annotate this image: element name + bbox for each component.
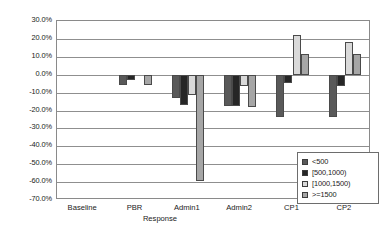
plot-area: <500[500,1000)[1000,1500)>=1500 bbox=[56, 20, 370, 199]
x-axis: BaselinePBRAdmin1Admin2CP1CP2 bbox=[56, 203, 370, 217]
bar bbox=[284, 75, 292, 83]
legend-item-label: >=1500 bbox=[312, 190, 336, 199]
bar bbox=[240, 75, 248, 87]
y-axis-tick-label: 10.0% bbox=[4, 52, 52, 60]
y-axis-tick-label: -10.0% bbox=[4, 88, 52, 96]
bar bbox=[232, 75, 240, 106]
y-axis-tick-label: 0.0% bbox=[4, 70, 52, 78]
legend-swatch-icon bbox=[302, 159, 308, 165]
legend-item-label: [1000,1500) bbox=[312, 179, 350, 188]
legend-swatch-icon bbox=[302, 192, 308, 198]
bar bbox=[119, 75, 127, 86]
x-axis-tick-label: PBR bbox=[108, 203, 160, 213]
x-axis-tick-label: Admin1 bbox=[161, 203, 213, 213]
legend-item-label: [500,1000) bbox=[312, 168, 346, 177]
legend-item: <500 bbox=[302, 156, 374, 167]
legend-swatch-icon bbox=[302, 170, 308, 176]
y-axis-tick-label: -30.0% bbox=[4, 123, 52, 131]
bar bbox=[329, 75, 337, 117]
legend-item: >=1500 bbox=[302, 189, 374, 200]
y-axis-tick-label: -70.0% bbox=[4, 195, 52, 203]
y-axis: 30.0%20.0%10.0%0.0%-10.0%-20.0%-30.0%-40… bbox=[0, 0, 52, 242]
legend-swatch-icon bbox=[302, 181, 308, 187]
bar bbox=[224, 75, 232, 106]
bar bbox=[144, 75, 152, 85]
bar bbox=[345, 42, 353, 75]
x-axis-tick-label: CP1 bbox=[265, 203, 317, 213]
bar bbox=[337, 75, 345, 87]
legend-item: [500,1000) bbox=[302, 167, 374, 178]
x-axis-title: Response bbox=[108, 214, 212, 224]
chart-legend: <500[500,1000)[1000,1500)>=1500 bbox=[297, 152, 379, 204]
bar bbox=[196, 75, 204, 182]
x-axis-tick-label: CP2 bbox=[318, 203, 370, 213]
y-axis-tick-label: -50.0% bbox=[4, 159, 52, 167]
bar-chart: 30.0%20.0%10.0%0.0%-10.0%-20.0%-30.0%-40… bbox=[0, 0, 382, 242]
legend-item-label: <500 bbox=[312, 157, 328, 166]
x-axis-tick-label: Baseline bbox=[56, 203, 108, 213]
y-axis-tick-label: 20.0% bbox=[4, 34, 52, 42]
bar bbox=[127, 75, 135, 80]
y-axis-tick-label: -40.0% bbox=[4, 141, 52, 149]
y-axis-tick-label: 30.0% bbox=[4, 16, 52, 24]
y-axis-tick-label: -60.0% bbox=[4, 177, 52, 185]
bar bbox=[172, 75, 180, 98]
bar bbox=[180, 75, 188, 105]
bar bbox=[301, 54, 309, 75]
bar bbox=[188, 75, 196, 96]
bar bbox=[276, 75, 284, 117]
bar bbox=[248, 75, 256, 107]
bar bbox=[353, 54, 361, 75]
x-axis-tick-label: Admin2 bbox=[213, 203, 265, 213]
legend-item: [1000,1500) bbox=[302, 178, 374, 189]
bar bbox=[293, 35, 301, 74]
y-axis-tick-label: -20.0% bbox=[4, 106, 52, 114]
